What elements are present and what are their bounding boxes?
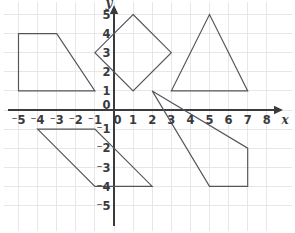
y-tick-label-neg3: ⁻3: [96, 161, 110, 175]
y-tick-label-neg1: ⁻1: [96, 122, 110, 136]
x-tick-label-6: 6: [225, 113, 233, 127]
x-tick-label-neg4: ⁻4: [31, 113, 45, 127]
y-tick-label-neg4: ⁻4: [96, 180, 110, 194]
y-tick-label-neg2: ⁻2: [96, 141, 110, 155]
y-tick-label-1: 1: [102, 84, 110, 98]
y-axis-name: y: [105, 0, 114, 10]
x-tick-label-4: 4: [186, 113, 194, 127]
y-tick-label-2: 2: [102, 65, 110, 79]
x-axis-name: x: [280, 113, 289, 127]
x-tick-label-5: 5: [205, 113, 213, 127]
plot-canvas: ⁻5⁻4⁻3⁻2⁻101234567854321⁻1⁻2⁻3⁻4⁻50xy: [0, 0, 295, 233]
x-tick-label-neg3: ⁻3: [50, 113, 64, 127]
x-tick-label-7: 7: [244, 113, 252, 127]
x-tick-label-1: 1: [129, 113, 137, 127]
x-tick-label-8: 8: [263, 113, 271, 127]
x-tick-label-0: 0: [113, 113, 121, 127]
coordinate-plane-figure: ⁻5⁻4⁻3⁻2⁻101234567854321⁻1⁻2⁻3⁻4⁻50xy: [0, 0, 295, 233]
x-tick-label-2: 2: [148, 113, 156, 127]
y-tick-label-4: 4: [102, 27, 110, 41]
x-tick-label-neg2: ⁻2: [69, 113, 83, 127]
origin-label: 0: [102, 98, 110, 112]
y-tick-label-neg5: ⁻5: [96, 199, 110, 213]
x-tick-label-3: 3: [167, 113, 175, 127]
y-tick-label-3: 3: [102, 46, 110, 60]
quadrilateral-lower-right: [152, 91, 248, 186]
x-tick-label-neg5: ⁻5: [11, 113, 25, 127]
